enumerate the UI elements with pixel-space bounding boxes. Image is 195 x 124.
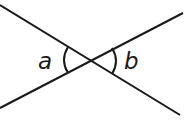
line-2 [0, 13, 183, 108]
angle-b-label: b [124, 48, 139, 74]
angle-a-arc [64, 47, 68, 73]
angle-a-label: a [38, 48, 52, 74]
angle-b-arc [112, 48, 116, 74]
line-1 [0, 5, 180, 115]
intersecting-lines-diagram: a b [0, 0, 195, 124]
